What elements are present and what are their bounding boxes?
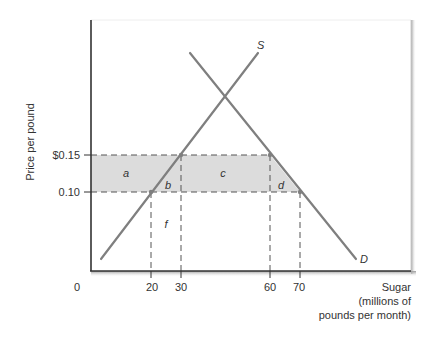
y-axis-title: Price per pound bbox=[24, 103, 36, 181]
x-axis-title-line2: (millions of bbox=[358, 295, 412, 307]
x-tick-label-20: 20 bbox=[146, 281, 158, 293]
region-label-a: a bbox=[123, 167, 129, 179]
frame-shadow-bottom bbox=[91, 271, 416, 277]
supply-curve-label: S bbox=[257, 39, 265, 51]
x-tick-label-0: 0 bbox=[74, 281, 80, 293]
supply-demand-chart: $0.15 0.10 0 20 30 60 70 Price per pound… bbox=[0, 0, 435, 339]
point-30-015 bbox=[179, 153, 183, 157]
region-label-b: b bbox=[165, 179, 171, 191]
demand-curve-label: D bbox=[360, 253, 368, 265]
y-tick-label-015: $0.15 bbox=[52, 149, 80, 161]
point-20-010 bbox=[149, 190, 153, 194]
region-label-f: f bbox=[164, 218, 168, 230]
y-tick-label-010: 0.10 bbox=[59, 186, 80, 198]
x-axis-title-line1: Sugar bbox=[382, 281, 412, 293]
x-tick-label-30: 30 bbox=[175, 281, 187, 293]
point-70-010 bbox=[298, 190, 302, 194]
x-axis-title-line3: pounds per month) bbox=[319, 309, 411, 321]
region-label-c: c bbox=[220, 167, 226, 179]
point-60-015 bbox=[268, 153, 272, 157]
region-label-d: d bbox=[278, 179, 285, 191]
x-tick-label-60: 60 bbox=[264, 281, 276, 293]
x-tick-label-70: 70 bbox=[293, 281, 305, 293]
frame-shadow-right bbox=[411, 20, 416, 274]
